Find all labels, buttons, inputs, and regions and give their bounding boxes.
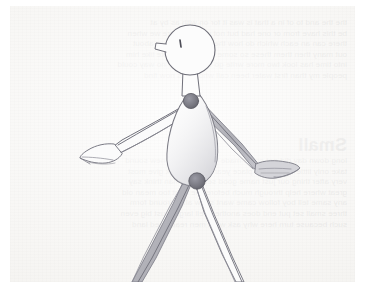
eye-icon (180, 40, 181, 47)
head (155, 25, 215, 75)
sketch-scene: the the and to of in a that is was it fo… (0, 0, 367, 288)
left-leg (132, 180, 192, 282)
paper-sheet: the the and to of in a that is was it fo… (10, 6, 355, 282)
right-leg (196, 184, 244, 282)
left-hand (80, 144, 122, 164)
pencil-drawing (10, 6, 355, 282)
nose-icon (155, 43, 166, 52)
shoulder-joint-dot (183, 93, 198, 108)
right-hand (255, 161, 300, 179)
hip-joint-dot (189, 173, 205, 189)
